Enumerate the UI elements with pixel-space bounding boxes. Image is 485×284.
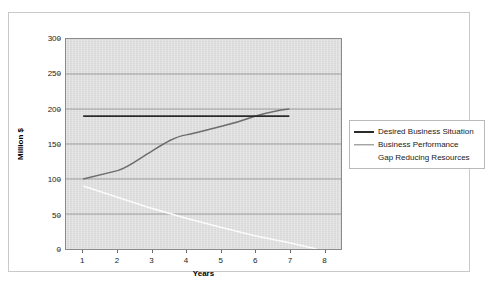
- chart-legend: Desired Business Situation Business Perf…: [349, 120, 485, 169]
- x-axis-title: Years: [65, 269, 342, 278]
- x-tick-label-8: 8: [322, 257, 326, 265]
- legend-item-desired-business-situation[interactable]: Desired Business Situation: [353, 125, 481, 138]
- x-tick-mark-4: [186, 250, 187, 253]
- y-tick-label-200: 200: [15, 106, 61, 114]
- y-tick-label-100: 100: [15, 176, 61, 184]
- legend-swatch-desired-business-situation: [353, 128, 375, 136]
- legend-item-business-performance[interactable]: Business Performance: [353, 138, 481, 151]
- legend-item-gap-reducing-resources[interactable]: Gap Reducing Resources: [353, 151, 481, 164]
- y-tick-label-300: 300: [15, 35, 61, 43]
- x-tick-label-4: 4: [184, 257, 188, 265]
- x-tick-label-5: 5: [218, 257, 222, 265]
- series-line-gap-reducing-resources: [83, 186, 317, 249]
- y-tick-mark-50: [58, 215, 61, 216]
- x-tick-label-2: 2: [115, 257, 119, 265]
- x-tick-mark-7: [290, 250, 291, 253]
- y-tick-label-250: 250: [15, 70, 61, 78]
- y-tick-label-0: 0: [15, 246, 61, 254]
- x-tick-label-6: 6: [253, 257, 257, 265]
- y-axis-title: Million $: [16, 128, 25, 160]
- x-tick-label-3: 3: [149, 257, 153, 265]
- x-tick-mark-3: [152, 250, 153, 253]
- y-tick-mark-250: [58, 74, 61, 75]
- x-tick-mark-1: [82, 250, 83, 253]
- y-tick-mark-300: [58, 39, 61, 40]
- x-tick-mark-8: [325, 250, 326, 253]
- legend-label-gap-reducing-resources: Gap Reducing Resources: [378, 154, 470, 162]
- chart-frame: 300 250 200 150 100 50 0 1 2 3 4 5 6 7 8…: [8, 12, 470, 272]
- legend-swatch-gap-reducing-resources: [353, 154, 375, 162]
- x-tick-mark-2: [117, 250, 118, 253]
- legend-swatch-business-performance: [353, 141, 375, 149]
- y-tick-mark-0: [58, 250, 61, 251]
- legend-label-desired-business-situation: Desired Business Situation: [378, 128, 474, 136]
- plot-area: [65, 38, 342, 250]
- x-tick-label-1: 1: [80, 257, 84, 265]
- legend-label-business-performance: Business Performance: [378, 141, 458, 149]
- x-tick-mark-6: [255, 250, 256, 253]
- x-axis-ticks: 1 2 3 4 5 6 7 8: [65, 250, 342, 268]
- x-tick-label-7: 7: [288, 257, 292, 265]
- y-tick-mark-150: [58, 145, 61, 146]
- y-tick-label-50: 50: [15, 212, 61, 220]
- y-tick-mark-200: [58, 109, 61, 110]
- x-tick-mark-5: [221, 250, 222, 253]
- y-tick-mark-100: [58, 180, 61, 181]
- plot-svg: [66, 39, 341, 249]
